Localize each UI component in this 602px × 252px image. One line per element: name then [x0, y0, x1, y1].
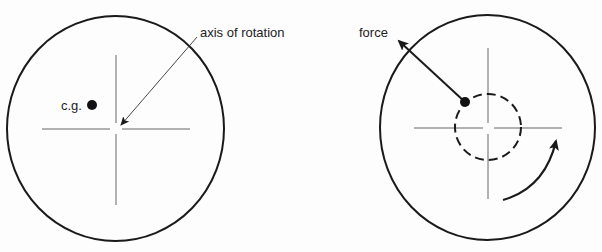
right-disc-outline	[380, 15, 595, 240]
force-label: force	[359, 25, 388, 40]
rotation-diagram: c.g. axis of rotation force	[0, 0, 602, 252]
center-of-gravity-dot	[460, 97, 470, 107]
right-panel-rotating-disc: force	[359, 15, 595, 240]
diagram-canvas: c.g. axis of rotation force	[0, 0, 602, 252]
force-arrow	[399, 41, 465, 102]
center-of-gravity-dot	[87, 100, 97, 110]
axis-pointer-arrow	[121, 37, 197, 125]
rotation-direction-arrow	[503, 141, 556, 200]
left-disc-outline	[7, 16, 224, 241]
axis-of-rotation-label: axis of rotation	[200, 25, 285, 40]
cg-label: c.g.	[61, 98, 82, 113]
left-panel-static-disc: c.g. axis of rotation	[7, 16, 285, 241]
